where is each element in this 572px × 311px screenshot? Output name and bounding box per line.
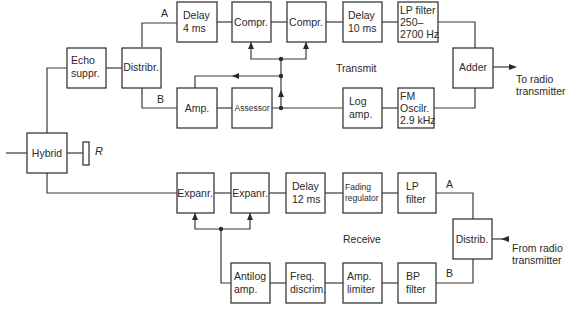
junction-dot [279, 57, 283, 61]
fading-reg-label-1: Fading [345, 182, 371, 192]
arrow-left-feedback [232, 73, 239, 79]
path-label-tx-a: A [161, 7, 168, 19]
lp-filter-tx-label-3: 2700 Hz [400, 28, 439, 40]
expander-2-block: Expanr. [231, 173, 269, 213]
delay4-label-2: 4 ms [183, 22, 206, 34]
bp-filter-label-1: BP [406, 270, 420, 282]
path-label-tx-b: B [157, 93, 164, 105]
arrow-up-compr2 [303, 42, 309, 49]
freq-discrim-label-1: Freq. [290, 270, 315, 282]
to-radio-label-1: To radio [516, 73, 554, 85]
bp-filter-label-2: filter [406, 283, 426, 295]
amp-limiter-label-2: limiter [347, 283, 376, 295]
delay-10ms-block: Delay 10 ms [343, 2, 382, 42]
amp-limiter-label-1: Amp. [347, 270, 372, 282]
junction-dot [279, 74, 283, 78]
arrow-right-to-radio [509, 64, 517, 70]
log-amp-label-1: Log [349, 95, 367, 107]
fm-osc-label-2: Oscilr. [400, 102, 429, 114]
from-radio-label-1: From radio [512, 242, 563, 254]
expander-1-block: Expanr. [177, 173, 214, 213]
hybrid-block: Hybrid [27, 133, 67, 173]
expanr1-label: Expanr. [177, 187, 213, 199]
amp-tx-block: Amp. [177, 88, 217, 128]
fm-oscillator-block: FM Oscilr. 2.9 kHz [398, 88, 436, 128]
delay-12ms-block: Delay 12 ms [286, 173, 325, 213]
lp-filter-tx-block: LP filter 250– 2700 Hz [398, 2, 439, 42]
delay10-label-2: 10 ms [348, 22, 377, 34]
fm-osc-label-3: 2.9 kHz [400, 114, 436, 126]
delay12-label-2: 12 ms [292, 193, 321, 205]
arrow-up-compr1 [248, 42, 254, 49]
log-amp-label-2: amp. [349, 108, 372, 120]
fading-reg-label-2: regulator [345, 193, 379, 203]
adder-label: Adder [459, 61, 488, 73]
arrow-up-expanr1 [192, 213, 198, 220]
bp-filter-block: BP filter [398, 263, 436, 303]
amp-tx-label: Amp. [185, 102, 210, 114]
lp-filter-rx-label-1: LP [406, 180, 419, 192]
path-label-rx-a: A [446, 178, 453, 190]
echo-suppressor-block: Echo suppr. [67, 48, 106, 88]
freq-discrim-label-2: discrim. [290, 283, 326, 295]
compressor-1-block: Compr. [232, 2, 271, 42]
resistor-label: R [95, 145, 103, 157]
echo-suppr-label-1: Echo [71, 54, 95, 66]
antilog-label-2: amp. [234, 283, 257, 295]
distrib-rx-label: Distrib. [456, 233, 489, 245]
junction-dot [279, 106, 283, 110]
delay10-label-1: Delay [348, 9, 376, 21]
resistor-r: R [83, 142, 103, 165]
arrow-up-expanr2 [247, 213, 253, 220]
lp-filter-rx-label-2: filter [406, 193, 426, 205]
distributor-rx-block: Distrib. [453, 219, 492, 259]
lp-filter-tx-label-1: LP filter [400, 4, 436, 16]
delay-4ms-block: Delay 4 ms [177, 2, 217, 42]
delay12-label-1: Delay [292, 180, 320, 192]
compressor-2-block: Compr. [287, 2, 326, 42]
path-label-rx-b: B [446, 267, 453, 279]
compr2-label: Compr. [289, 16, 323, 28]
delay4-label-1: Delay [183, 9, 211, 21]
junction-dot [219, 227, 223, 231]
arrow-up-control [278, 90, 284, 97]
receive-section-label: Receive [343, 233, 381, 245]
assessor-block: Assessor [232, 88, 272, 128]
lp-filter-rx-block: LP filter [398, 173, 436, 213]
transmit-section-label: Transmit [336, 62, 377, 74]
fm-osc-label-1: FM [400, 90, 415, 102]
expanr2-label: Expanr. [232, 187, 268, 199]
echo-suppr-label-2: suppr. [71, 67, 100, 79]
distributor-tx-block: Distribr. [122, 48, 161, 88]
fading-regulator-block: Fading regulator [343, 173, 382, 213]
antilog-amp-block: Antilog amp. [231, 263, 270, 303]
hybrid-label: Hybrid [32, 147, 63, 159]
adder-block: Adder [453, 48, 493, 88]
log-amp-block: Log amp. [343, 88, 382, 128]
arrow-left-from-radio [501, 236, 509, 242]
from-radio-label-2: transmitter [512, 254, 562, 266]
freq-discriminator-block: Freq. discrim. [286, 263, 326, 303]
compr1-label: Compr. [234, 16, 268, 28]
block-diagram: Hybrid R Echo suppr. Distribr. A B Delay… [0, 0, 572, 311]
to-radio-label-2: transmitter [516, 85, 566, 97]
assessor-label: Assessor [235, 103, 270, 113]
amp-limiter-block: Amp. limiter [343, 263, 382, 303]
distribr-label: Distribr. [123, 61, 159, 73]
antilog-label-1: Antilog [234, 270, 266, 282]
lp-filter-tx-label-2: 250– [400, 16, 424, 28]
